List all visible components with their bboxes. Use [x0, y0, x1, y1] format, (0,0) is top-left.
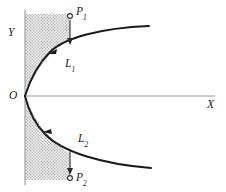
point-label-p2: P2 [76, 172, 87, 184]
point-label-p1: P1 [76, 6, 87, 18]
origin-label: O [9, 90, 17, 102]
point-marker-p1 [68, 14, 73, 19]
point-label-l2-subscript: 2 [84, 140, 88, 149]
point-label-p2-subscript: 2 [83, 179, 87, 188]
point-label-l1: L1 [65, 58, 75, 70]
geometry-figure: Y X O P1 L1 L2 P2 [0, 0, 226, 192]
point-label-p1-subscript: 1 [83, 13, 87, 22]
y-axis-label: Y [8, 27, 14, 39]
point-label-l1-subscript: 1 [71, 65, 75, 74]
point-label-p1-base: P [76, 5, 83, 17]
point-label-p2-base: P [76, 171, 83, 183]
shaded-region [25, 14, 70, 180]
point-label-l2: L2 [78, 133, 88, 145]
x-axis-label: X [207, 99, 214, 111]
point-marker-p2 [68, 176, 73, 181]
figure-canvas [0, 0, 226, 192]
